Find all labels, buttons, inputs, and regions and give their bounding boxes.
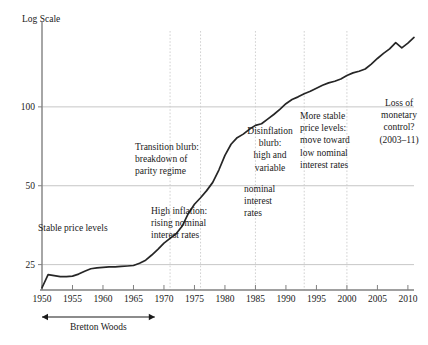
x-tick-label: 1980: [215, 294, 234, 304]
annotation-loss-of-monetary-control: Loss of monetary control? (2003–11): [372, 97, 426, 146]
annotation-transition-blurb: Transition blurb: breakdown of parity re…: [135, 141, 231, 178]
y-tick-label: 100: [21, 102, 36, 112]
span-arrowhead-right-bretton-woods: [149, 314, 155, 320]
annotation-disinflation-blurb-cont: nominal interest rates: [244, 183, 296, 220]
x-tick-label: 1955: [63, 294, 82, 304]
annotation-disinflation-blurb: Disinflation blurb: high and variable: [244, 125, 296, 174]
x-tick-label: 1990: [276, 294, 295, 304]
y-tick-label: 50: [26, 181, 36, 191]
span-label-bretton-woods: Bretton Woods: [42, 322, 155, 332]
x-tick-label: 2010: [398, 294, 417, 304]
x-tick-label: 1965: [124, 294, 143, 304]
price-level-log-scale-chart: 2550100195019551960196519701975198019851…: [0, 0, 428, 345]
x-tick-label: 1995: [307, 294, 326, 304]
x-tick-label: 1960: [93, 294, 112, 304]
annotation-high-inflation: High inflation: rising nominal interest …: [151, 205, 243, 242]
x-tick-label: 1950: [33, 294, 52, 304]
y-axis-caption: Log Scale: [22, 14, 60, 24]
span-arrowhead-left-bretton-woods: [42, 314, 48, 320]
x-tick-label: 1970: [154, 294, 173, 304]
y-tick-label: 25: [26, 260, 36, 270]
x-tick-label: 1985: [246, 294, 265, 304]
annotation-more-stable-price-levels: More stable price levels: move toward lo…: [300, 110, 372, 171]
x-tick-label: 1975: [185, 294, 204, 304]
x-tick-label: 2000: [337, 294, 356, 304]
annotation-stable-price-levels: Stable price levels: [38, 222, 148, 234]
x-tick-label: 2005: [368, 294, 387, 304]
